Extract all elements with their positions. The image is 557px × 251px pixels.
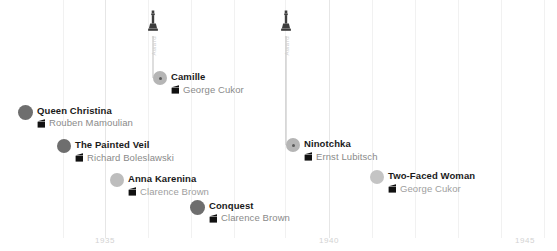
gridline (458, 0, 459, 238)
award-label: Award (283, 36, 289, 55)
film-director-row: Rouben Mamoulian (37, 117, 133, 129)
film-director: Rouben Mamoulian (49, 117, 133, 129)
x-axis-tick-1935: 1935 (95, 236, 115, 245)
clapperboard-icon (209, 214, 218, 223)
clapperboard-icon (75, 153, 84, 162)
clapperboard-icon (304, 152, 313, 161)
award-dot-center (159, 77, 162, 80)
oscar-statuette-icon (148, 10, 159, 34)
film-text-block: Queen ChristinaRouben Mamoulian (37, 105, 133, 130)
film-dot-circle (18, 105, 33, 120)
oscar-statuette-icon (281, 10, 292, 34)
gridline (544, 0, 545, 238)
film-text-block: The Painted VeilRichard Boleslawski (75, 139, 174, 164)
film-title: Queen Christina (37, 105, 133, 117)
clapperboard-icon (128, 187, 137, 196)
clapperboard-icon (388, 184, 397, 193)
gridline (329, 0, 330, 238)
film-director-row: George Cukor (171, 84, 244, 96)
film-text-block: Anna KareninaClarence Brown (128, 173, 209, 198)
film-title: Two-Faced Woman (388, 170, 475, 182)
film-dot[interactable] (370, 170, 384, 184)
film-entry[interactable]: Queen ChristinaRouben Mamoulian (18, 105, 133, 130)
film-text-block: CamilleGeorge Cukor (171, 71, 244, 96)
film-entry[interactable]: CamilleGeorge Cukor (153, 71, 244, 96)
film-director: George Cukor (400, 183, 461, 195)
film-title: The Painted Veil (75, 139, 174, 151)
film-text-block: NinotchkaErnst Lubitsch (304, 138, 378, 163)
film-title: Ninotchka (304, 138, 378, 150)
film-entry[interactable]: Two-Faced WomanGeorge Cukor (370, 170, 475, 195)
gridline (372, 0, 373, 238)
film-text-block: ConquestClarence Brown (209, 200, 290, 225)
film-dot[interactable] (286, 138, 300, 152)
film-entry[interactable]: Anna KareninaClarence Brown (110, 173, 209, 198)
film-dot[interactable] (110, 173, 124, 187)
x-axis-tick-1940: 1940 (319, 236, 339, 245)
film-entry[interactable]: The Painted VeilRichard Boleslawski (57, 139, 174, 164)
film-director-row: Clarence Brown (128, 186, 209, 198)
film-text-block: Two-Faced WomanGeorge Cukor (388, 170, 475, 195)
gridline (415, 0, 416, 238)
film-dot-circle (190, 200, 205, 215)
award-marker[interactable]: Award (281, 10, 292, 55)
film-director-row: Richard Boleslawski (75, 152, 174, 164)
film-title: Anna Karenina (128, 173, 209, 185)
film-director-row: Clarence Brown (209, 212, 290, 224)
film-title: Conquest (209, 200, 290, 212)
award-dot-center (292, 144, 295, 147)
gridline (501, 0, 502, 238)
award-label: Award (150, 36, 156, 55)
film-dot-circle (57, 139, 71, 153)
clapperboard-icon (171, 85, 180, 94)
film-dot[interactable] (18, 105, 33, 120)
film-dot-circle (370, 170, 384, 184)
film-title: Camille (171, 71, 244, 83)
film-dot[interactable] (153, 71, 167, 85)
film-director: George Cukor (183, 84, 244, 96)
film-director: Clarence Brown (140, 186, 209, 198)
film-dot-circle (110, 173, 124, 187)
film-dot[interactable] (190, 200, 205, 215)
film-dot[interactable] (57, 139, 71, 153)
film-timeline-chart: AwardAward Queen ChristinaRouben Mamouli… (0, 0, 557, 251)
film-entry[interactable]: ConquestClarence Brown (190, 200, 290, 225)
film-director: Ernst Lubitsch (316, 151, 378, 163)
film-entry[interactable]: NinotchkaErnst Lubitsch (286, 138, 378, 163)
film-director-row: Ernst Lubitsch (304, 151, 378, 163)
film-director-row: George Cukor (388, 183, 475, 195)
clapperboard-icon (37, 119, 46, 128)
film-director: Clarence Brown (221, 212, 290, 224)
x-axis-tick-1945: 1945 (515, 236, 535, 245)
film-director: Richard Boleslawski (87, 152, 174, 164)
award-marker[interactable]: Award (148, 10, 159, 55)
